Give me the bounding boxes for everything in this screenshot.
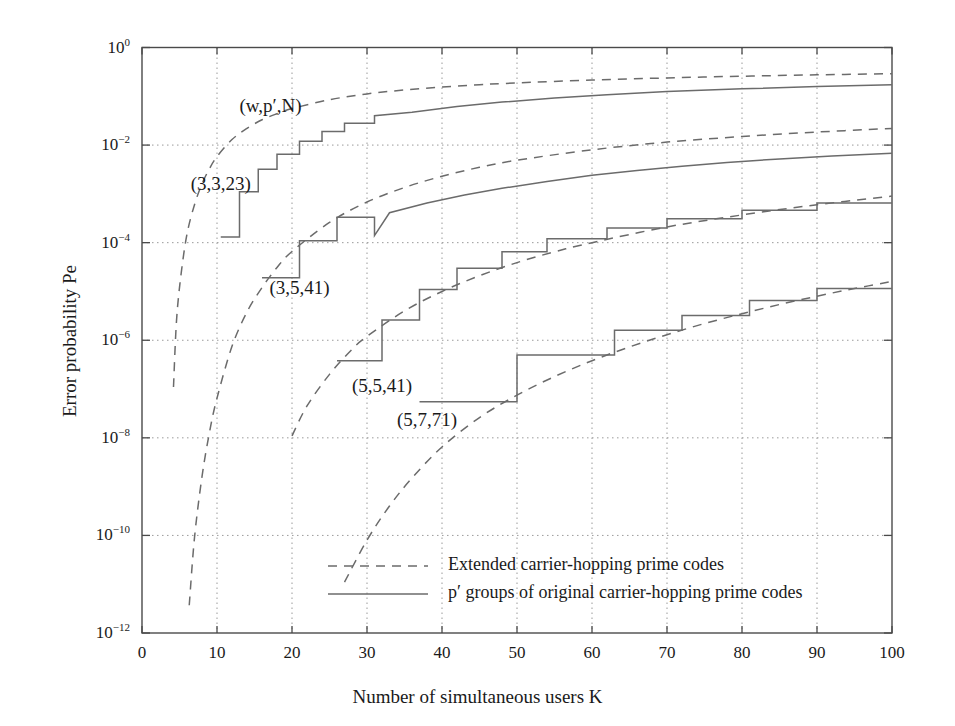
x-tick-label: 100 <box>862 643 922 663</box>
chart-figure: Error probability Pe Number of simultane… <box>0 0 955 726</box>
x-tick-label: 70 <box>637 643 697 663</box>
y-tick-label: 10−10 <box>60 523 130 545</box>
annotation-3: (5,5,41) <box>352 375 412 397</box>
legend-sample-lines <box>328 566 428 594</box>
x-tick-label: 80 <box>712 643 772 663</box>
y-tick-label: 10−12 <box>60 621 130 643</box>
x-tick-label: 0 <box>112 643 172 663</box>
series-path-6 <box>345 282 893 583</box>
legend-label-extended: Extended carrier-hopping prime codes <box>448 554 724 575</box>
series-path-3 <box>262 153 892 278</box>
y-tick-label: 10−8 <box>60 426 130 448</box>
data-curves <box>174 74 893 606</box>
x-tick-label: 30 <box>337 643 397 663</box>
x-tick-label: 90 <box>787 643 847 663</box>
series-path-2 <box>189 128 892 605</box>
x-axis-title: Number of simultaneous users K <box>0 686 955 708</box>
plot-canvas <box>0 0 955 726</box>
y-tick-label: 10−6 <box>60 328 130 350</box>
series-path-7 <box>420 289 893 402</box>
annotation-2: (3,5,41) <box>270 277 330 299</box>
grid-lines <box>142 48 892 634</box>
annotation-4: (5,7,71) <box>397 409 457 431</box>
x-tick-label: 40 <box>412 643 472 663</box>
x-tick-label: 60 <box>562 643 622 663</box>
legend-label-groups: p′ groups of original carrier-hopping pr… <box>448 582 802 603</box>
x-tick-label: 10 <box>187 643 247 663</box>
y-tick-label: 10−2 <box>60 133 130 155</box>
y-tick-label: 10−4 <box>60 231 130 253</box>
y-tick-label: 100 <box>60 36 130 58</box>
annotation-0: (w,p′,N) <box>240 95 302 117</box>
x-tick-label: 20 <box>262 643 322 663</box>
x-tick-label: 50 <box>487 643 547 663</box>
series-path-4 <box>292 196 892 436</box>
series-path-1 <box>221 85 892 237</box>
annotation-1: (3,3,23) <box>191 173 251 195</box>
